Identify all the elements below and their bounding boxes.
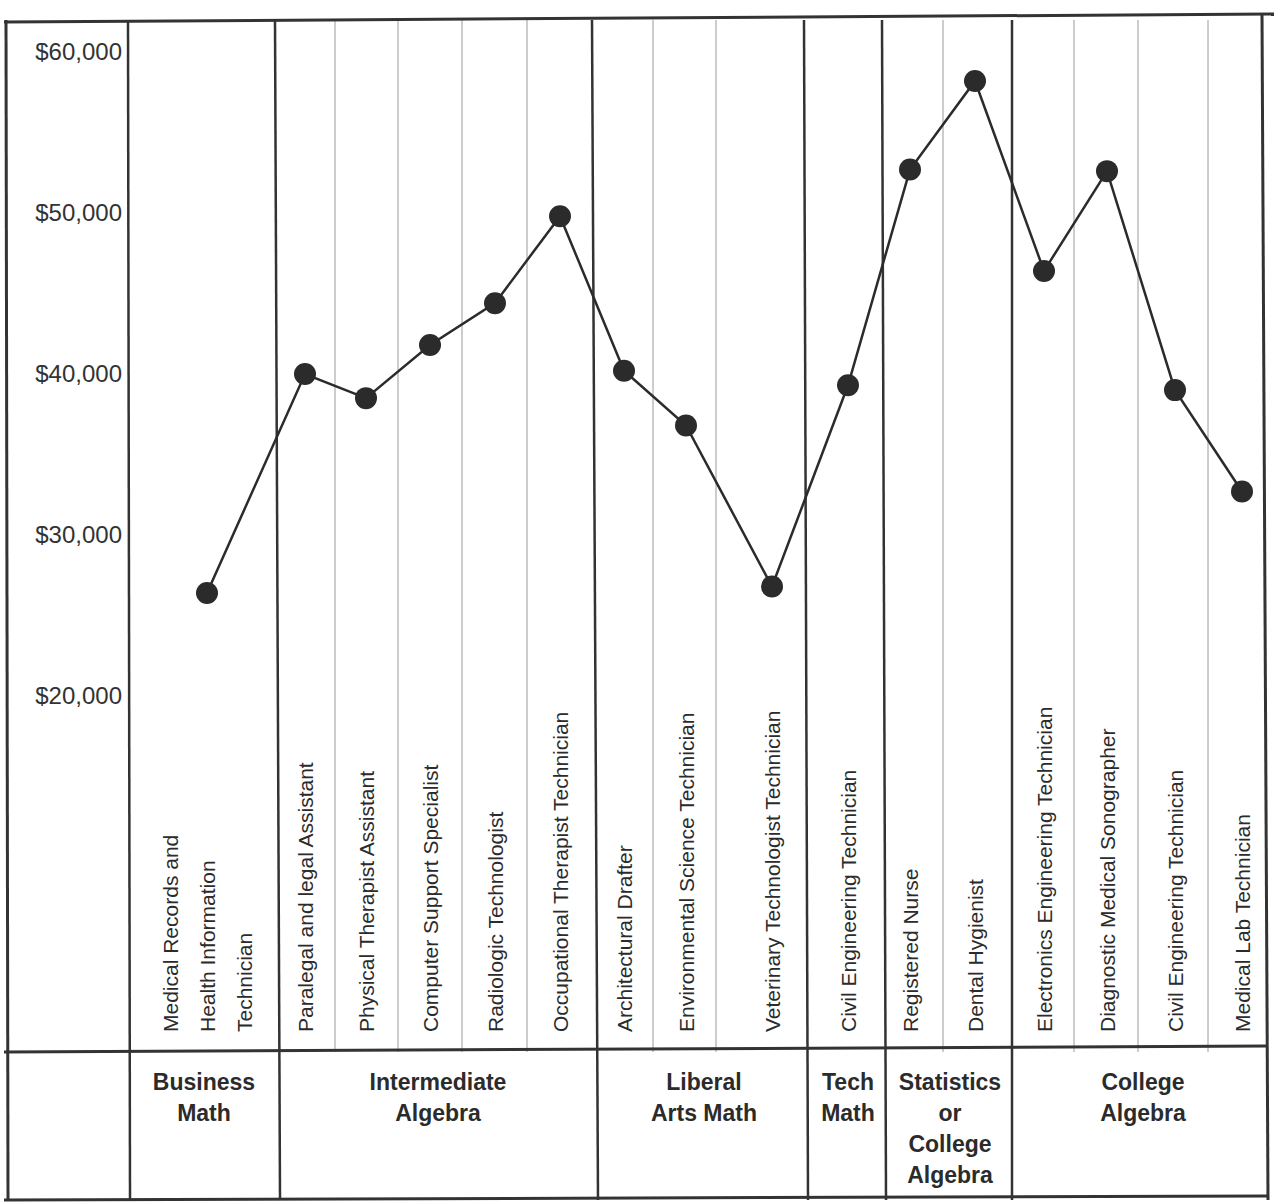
course-group-label: Algebra [1100, 1100, 1186, 1126]
course-group-label: Business [153, 1069, 255, 1095]
occupation-label: Veterinary Technologist Technician [761, 711, 784, 1032]
occupation-label: Diagnostic Medical Sonographer [1096, 728, 1119, 1032]
occupation-label: Physical Therapist Assistant [355, 771, 378, 1032]
occupation-labels: Medical Records andHealth InformationTec… [159, 707, 1254, 1032]
data-point-marker [613, 360, 635, 382]
salary-line-chart: $60,000$50,000$40,000$30,000$20,000 Medi… [0, 0, 1276, 1204]
course-group-label: Math [177, 1100, 231, 1126]
occupation-label: Environmental Science Technician [675, 713, 698, 1032]
course-group-label: Liberal [666, 1069, 741, 1095]
course-group-label: Algebra [395, 1100, 481, 1126]
y-tick-label: $30,000 [35, 521, 122, 548]
course-group-label: College [1101, 1069, 1184, 1095]
occupation-label: Computer Support Specialist [419, 765, 442, 1032]
data-point-marker [837, 374, 859, 396]
y-tick-label: $50,000 [35, 199, 122, 226]
occupation-label: Dental Hygienist [964, 879, 987, 1032]
y-axis-ticks: $60,000$50,000$40,000$30,000$20,000 [35, 38, 122, 709]
data-point-marker [484, 292, 506, 314]
occupation-label: Registered Nurse [899, 869, 922, 1032]
salary-line [207, 81, 1242, 593]
occupation-label: Radiologic Technologist [484, 812, 507, 1032]
data-point-marker [549, 205, 571, 227]
occupation-label: Civil Engineering Technician [837, 770, 860, 1032]
data-point-marker [1096, 160, 1118, 182]
course-group-label: Algebra [907, 1162, 993, 1188]
occupation-label: Occupational Therapist Technician [549, 712, 572, 1032]
course-group-label: Tech [822, 1069, 874, 1095]
occupation-label: Medical Lab Technician [1231, 814, 1254, 1032]
occupation-label: Civil Engineering Technician [1164, 770, 1187, 1032]
y-tick-label: $20,000 [35, 682, 122, 709]
occupation-label: Technician [233, 933, 256, 1032]
course-group-label: College [908, 1131, 991, 1157]
course-group-label: or [939, 1100, 962, 1126]
data-point-marker [355, 387, 377, 409]
course-group-label: Statistics [899, 1069, 1001, 1095]
occupation-label: Electronics Engineering Technician [1033, 707, 1056, 1032]
data-point-marker [675, 415, 697, 437]
data-point-marker [964, 70, 986, 92]
data-point-marker [1033, 260, 1055, 282]
data-point-marker [1231, 481, 1253, 503]
course-group-label: Math [821, 1100, 875, 1126]
y-tick-label: $40,000 [35, 360, 122, 387]
course-group-label: Intermediate [370, 1069, 507, 1095]
salary-series [196, 70, 1253, 604]
data-point-marker [899, 159, 921, 181]
data-point-marker [196, 582, 218, 604]
data-point-marker [294, 363, 316, 385]
y-tick-label: $60,000 [35, 38, 122, 65]
course-group-label: Arts Math [651, 1100, 757, 1126]
data-point-marker [1164, 379, 1186, 401]
chart-frame [4, 14, 1274, 1200]
occupation-label: Health Information [196, 860, 219, 1032]
data-point-marker [419, 334, 441, 356]
occupation-label: Paralegal and legal Assistant [294, 762, 317, 1032]
occupation-label: Medical Records and [159, 835, 182, 1032]
data-point-marker [761, 576, 783, 598]
occupation-label: Architectural Drafter [613, 845, 636, 1032]
course-labels: BusinessMathIntermediateAlgebraLiberalAr… [153, 1069, 1186, 1188]
